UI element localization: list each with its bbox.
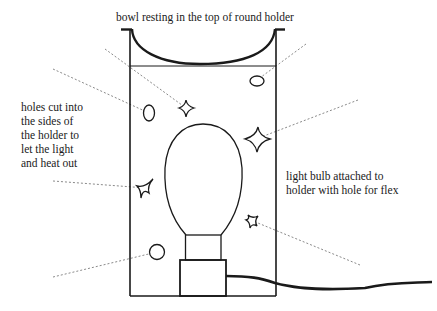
leader-line-circle (53, 252, 157, 277)
holes-label-line: let the light (21, 142, 83, 156)
bulb-label: light bulb attached to holder with hole … (286, 169, 398, 197)
holes-label-line: and heat out (21, 156, 83, 170)
holes-label-line: the sides of (21, 114, 83, 128)
leader-line-star-top (105, 49, 186, 108)
bulb-label-line: holder with hole for flex (286, 183, 398, 197)
bulb-glass (165, 124, 242, 235)
bowl (121, 29, 285, 64)
holes-label-line: the holder to (21, 128, 83, 142)
holes (137, 76, 270, 260)
oval-hole-right (250, 76, 264, 86)
holes-label: holes cut into the sides of the holder t… (21, 100, 83, 170)
bulb-label-line: light bulb attached to (286, 169, 398, 183)
leader-lines (53, 44, 360, 277)
bulb-neck (186, 235, 222, 260)
flex-cable (226, 276, 432, 289)
leader-line-star-lower (253, 221, 360, 265)
star-hole-right (245, 127, 270, 152)
bulb-socket (180, 260, 226, 296)
star-hole-lower (246, 215, 258, 228)
light-bulb (165, 124, 242, 296)
oval-hole-left (144, 105, 155, 121)
star-hole-left (137, 179, 153, 198)
circle-hole (150, 245, 165, 260)
diagram-title: bowl resting in the top of round holder (0, 10, 410, 24)
holes-label-line: holes cut into (21, 100, 83, 114)
leader-line-star-left (53, 181, 146, 188)
star-hole-top (179, 100, 194, 117)
leader-line-star-right (256, 100, 358, 139)
